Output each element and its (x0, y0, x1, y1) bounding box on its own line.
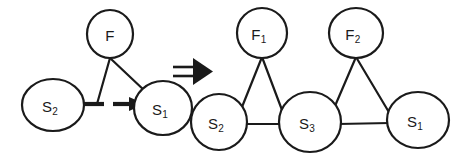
node-S1-left: S1 (134, 81, 192, 135)
node-F-label: F (105, 27, 114, 44)
diagram-canvas: F S2 S1 (0, 0, 463, 156)
node-F: F (87, 10, 133, 58)
edge-F-to-S1 (110, 58, 146, 92)
edge-F2-to-S1 (356, 57, 393, 119)
node-S1-right: S1 (387, 92, 449, 148)
node-S2-right: S2 (191, 94, 247, 150)
graph-transformation-figure: F S2 S1 (0, 0, 463, 156)
edge-S3-to-S1 (338, 123, 390, 124)
node-F1: F1 (237, 8, 287, 58)
right-graph: F1 F2 S2 S3 S1 (191, 8, 449, 152)
node-S3: S3 (279, 92, 341, 152)
edge-F-to-S2 (97, 58, 110, 104)
node-S2-left: S2 (22, 79, 84, 131)
implies-double-arrow-icon (173, 58, 213, 85)
left-graph: F S2 S1 (22, 10, 192, 135)
node-F2: F2 (329, 8, 383, 58)
